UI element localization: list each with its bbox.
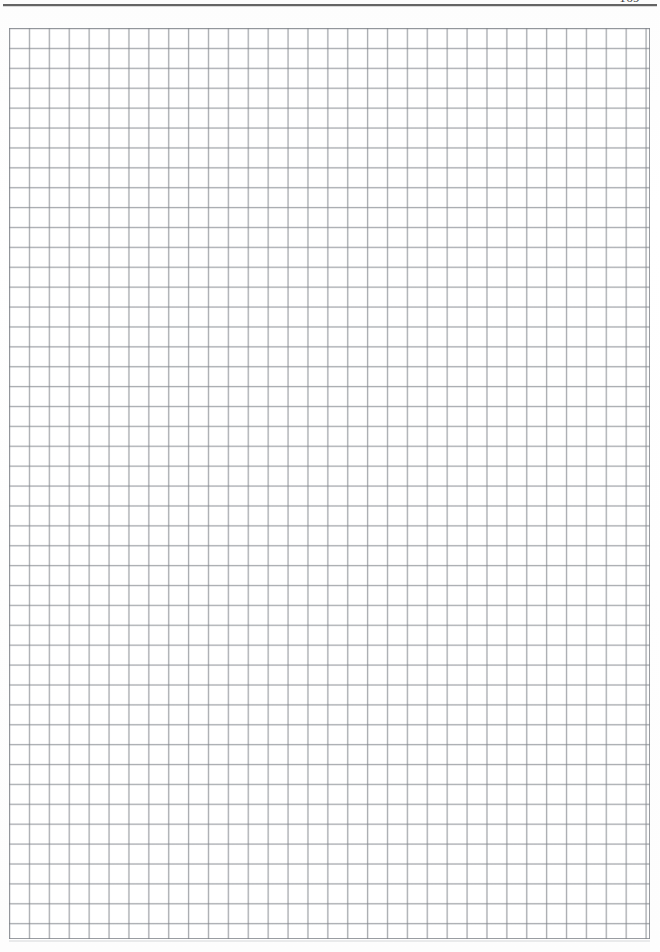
graph-paper-grid [9, 28, 650, 939]
scanned-page: 169 Squared graph-paper grid [0, 0, 660, 952]
grid-bottom-border [9, 938, 650, 939]
page-number-clip: 169 [590, 0, 650, 7]
grid-right-border [649, 28, 650, 939]
page-header: 169 [0, 0, 660, 16]
header-rule-shadow [3, 6, 657, 7]
grid-bottom-border-blur [9, 940, 650, 942]
page-number: 169 [619, 0, 640, 4]
